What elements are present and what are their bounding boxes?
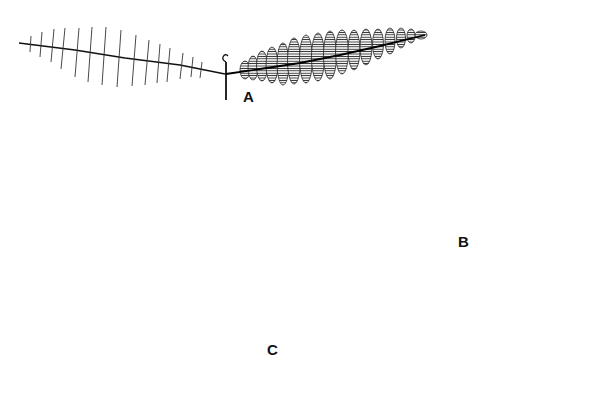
panel-label-a: A (243, 89, 254, 104)
panel-a-pinna (19, 27, 427, 100)
mimosa-leaf-illustration (0, 0, 595, 415)
panel-label-b: B (458, 234, 469, 249)
panel-label-c: C (267, 342, 278, 357)
